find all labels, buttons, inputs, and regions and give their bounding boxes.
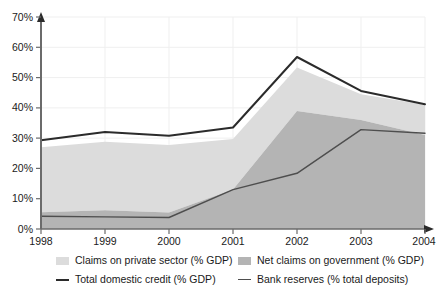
- chart-legend: Claims on private sector (% GDP) Net cla…: [0, 252, 437, 301]
- y-tick-label: 30%: [12, 132, 33, 144]
- legend-line-icon-total-credit: [56, 279, 69, 281]
- x-tick-label: 2002: [285, 235, 309, 245]
- legend-label-government: Net claims on government (% GDP): [257, 255, 424, 266]
- legend-row-2: Total domestic credit (% GDP) Bank reser…: [56, 271, 437, 288]
- x-tick-label: 2004: [412, 235, 436, 245]
- y-axis-labels: 70% 60% 50% 40% 30% 20% 10% 0%: [12, 11, 33, 235]
- legend-swatch-icon-government: [238, 257, 251, 265]
- x-tick-label: 1998: [29, 235, 53, 245]
- legend-line-icon-bank-reserves: [238, 279, 251, 280]
- legend-label-total-credit: Total domestic credit (% GDP): [75, 274, 216, 285]
- legend-item-net-claims-government[interactable]: Net claims on government (% GDP): [238, 252, 424, 269]
- legend-item-total-domestic-credit[interactable]: Total domestic credit (% GDP): [56, 271, 238, 288]
- x-tick-label: 2001: [221, 235, 245, 245]
- legend-row-1: Claims on private sector (% GDP) Net cla…: [56, 252, 437, 269]
- y-tick-label: 20%: [12, 162, 33, 174]
- legend-label-private-sector: Claims on private sector (% GDP): [75, 255, 233, 266]
- y-tick-label: 50%: [12, 71, 33, 83]
- legend-item-claims-private-sector[interactable]: Claims on private sector (% GDP): [56, 252, 238, 269]
- chart-svg: 70% 60% 50% 40% 30% 20% 10% 0% 1998 1999…: [0, 0, 437, 245]
- area-chart: 70% 60% 50% 40% 30% 20% 10% 0% 1998 1999…: [0, 0, 437, 301]
- x-tick-label: 1999: [93, 235, 117, 245]
- y-tick-label: 40%: [12, 101, 33, 113]
- legend-swatch-icon-private-sector: [56, 257, 69, 265]
- x-tick-label: 2000: [157, 235, 181, 245]
- legend-label-bank-reserves: Bank reserves (% total deposits): [257, 274, 408, 285]
- x-tick-marks: [41, 229, 425, 234]
- legend-item-bank-reserves[interactable]: Bank reserves (% total deposits): [238, 271, 408, 288]
- x-axis-labels: 1998 1999 2000 2001 2002 2003 2004: [29, 235, 436, 245]
- x-tick-label: 2003: [349, 235, 373, 245]
- y-tick-label: 60%: [12, 41, 33, 53]
- y-tick-label: 70%: [12, 11, 33, 23]
- y-tick-label: 0%: [18, 223, 33, 235]
- plot-area: 70% 60% 50% 40% 30% 20% 10% 0% 1998 1999…: [0, 0, 437, 245]
- y-tick-label: 10%: [12, 192, 33, 204]
